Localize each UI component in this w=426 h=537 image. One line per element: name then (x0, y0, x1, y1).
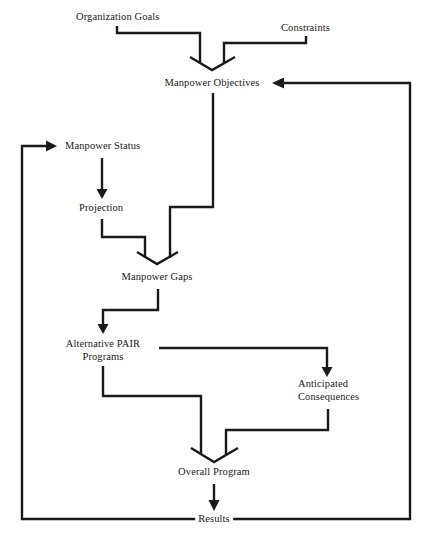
node-constraints: Constraints (281, 22, 330, 34)
arrowhead-right-icon (46, 141, 57, 152)
arrowhead-down-icon (209, 500, 220, 511)
node-manpower-status: Manpower Status (65, 140, 140, 152)
edge-gaps-to-alternatives (103, 289, 158, 326)
node-results: Results (195, 513, 233, 525)
arrowhead-down-icon (322, 367, 333, 377)
merge-chevron-gaps-icon (137, 252, 178, 264)
node-projection: Projection (79, 202, 123, 214)
merge-chevron-overall-icon (191, 448, 238, 462)
node-alternative-pair-line2: Programs (82, 351, 123, 363)
node-alternative-pair-line1: Alternative PAIR (66, 338, 140, 350)
edge-alternatives-to-consequences (159, 348, 327, 370)
node-manpower-gaps: Manpower Gaps (122, 271, 193, 283)
edge-objectives-to-gaps (170, 93, 213, 258)
edge-alternatives-to-overall (103, 366, 201, 455)
merge-chevron-objectives-icon (190, 57, 235, 70)
node-organization-goals: Organization Goals (76, 11, 160, 23)
edge-consequences-to-overall (226, 409, 328, 455)
arrowhead-left-icon (272, 78, 284, 89)
node-manpower-objectives: Manpower Objectives (165, 77, 260, 89)
node-anticipated-line1: Anticipated (298, 378, 348, 390)
edge-constraints-to-objectives (224, 36, 306, 63)
node-anticipated-line2: Consequences (298, 391, 359, 403)
arrowhead-down-icon (97, 189, 108, 199)
feedback-loop-right (233, 83, 410, 519)
edge-org-goals-to-objectives (117, 26, 200, 63)
flowchart-canvas: Organization Goals Constraints Manpower … (0, 0, 426, 537)
arrowhead-down-icon (98, 324, 109, 334)
node-overall-program: Overall Program (178, 466, 250, 478)
